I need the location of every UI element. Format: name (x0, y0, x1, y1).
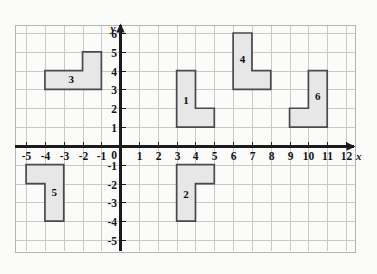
x-axis-tick-label: -1 (97, 150, 107, 162)
y-axis-tick-label: -2 (107, 179, 117, 191)
x-axis-tick-label: 7 (250, 150, 256, 162)
x-axis-tick-label: 4 (193, 150, 199, 162)
x-axis-tick-label: 3 (175, 150, 181, 162)
polygon-shape-5 (26, 165, 64, 221)
y-axis-tick-label: -4 (107, 216, 117, 228)
y-axis-tick-label: -3 (107, 197, 117, 209)
x-axis-tick-label: 10 (303, 150, 315, 162)
polygon-shape-label-6: 6 (315, 90, 321, 102)
y-axis-tick-label: -5 (107, 235, 117, 247)
plot-canvas: 123456 -5-4-3-2-1123456789101112654321-1… (0, 0, 377, 274)
polygon-shape-2 (177, 165, 215, 221)
y-axis-arrow-icon (116, 24, 124, 33)
polygon-shape-label-4: 4 (240, 53, 246, 65)
polygon-shape-1 (177, 71, 215, 127)
x-axis-tick-label: -2 (79, 150, 89, 162)
origin-label: 0 (111, 149, 117, 161)
x-axis-tick-label: -4 (41, 150, 51, 162)
polygon-shape-6 (290, 71, 328, 127)
y-axis-tick-label: -1 (107, 160, 117, 172)
x-axis-tick-label: 8 (269, 150, 275, 162)
polygon-shape-label-2: 2 (183, 188, 189, 200)
y-axis-tick-label: 3 (111, 84, 117, 96)
x-axis-tick-label: 12 (341, 150, 353, 162)
y-axis-tick-label: 5 (111, 47, 117, 59)
polygon-shape-label-5: 5 (52, 186, 58, 198)
x-axis-tick-label: 11 (322, 150, 333, 162)
y-axis-tick-label: 1 (111, 122, 117, 134)
x-axis-tick-label: 5 (212, 150, 218, 162)
x-axis-tick-label: 2 (156, 150, 162, 162)
coordinate-plane-figure: 123456 -5-4-3-2-1123456789101112654321-1… (0, 0, 377, 274)
x-axis-tick-label: -3 (60, 150, 70, 162)
x-axis-name: x (355, 150, 362, 162)
polygon-shape-label-3: 3 (69, 73, 75, 85)
polygon-shape-4 (233, 33, 271, 89)
y-axis-name: y (109, 22, 116, 34)
x-axis-tick-label: -5 (22, 150, 32, 162)
polygon-shape-label-1: 1 (183, 94, 189, 106)
y-axis-tick-label: 2 (111, 103, 117, 115)
x-axis-tick-label: 1 (137, 150, 143, 162)
x-axis-tick-label: 9 (288, 150, 294, 162)
y-axis-tick-label: 4 (111, 66, 117, 78)
x-axis-tick-label: 6 (231, 150, 237, 162)
